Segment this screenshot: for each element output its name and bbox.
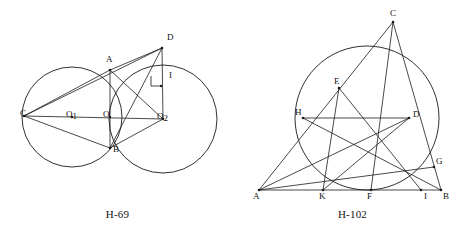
segment-ei: [339, 88, 421, 190]
label-i: I: [424, 191, 427, 201]
figure-h69-caption: H-69: [0, 208, 235, 220]
figure-h69-drawing: A B C D I O O1 O2: [0, 0, 235, 208]
point-i: [160, 85, 162, 87]
segment-a-o2: [110, 70, 163, 119]
label-g: G: [436, 156, 443, 166]
segment-cb: [393, 22, 441, 190]
segment-cd: [24, 48, 162, 116]
segment-ek: [323, 88, 339, 190]
label-d: D: [167, 32, 174, 42]
segment-cb: [24, 116, 110, 148]
label-b: B: [443, 191, 449, 201]
figure-sheet: A B C D I O O1 O2: [0, 0, 470, 238]
label-a: A: [253, 191, 260, 201]
point-d: [161, 47, 164, 50]
label-c: C: [390, 8, 396, 18]
label-k: K: [319, 191, 326, 201]
label-b: B: [113, 144, 119, 154]
label-h: H: [295, 107, 302, 117]
segment-kd: [323, 118, 409, 190]
label-e: E: [334, 76, 340, 86]
point-g: [433, 166, 436, 169]
label-d: D: [413, 109, 420, 119]
point-c: [392, 21, 395, 24]
label-c: C: [20, 108, 26, 118]
label-f: F: [367, 191, 372, 201]
label-o1: O1: [66, 109, 77, 121]
figure-h69: A B C D I O O1 O2: [0, 0, 235, 238]
segment-ac: [259, 22, 393, 190]
right-angle-mark: [151, 76, 161, 86]
point-h: [302, 117, 305, 120]
point-b: [109, 147, 112, 150]
label-i: I: [169, 70, 172, 80]
figure-h102: A B C D E F G H I K: [235, 0, 470, 238]
segment-c-o2: [24, 116, 163, 119]
segment-d-o2: [162, 48, 163, 119]
label-o: O: [103, 109, 110, 119]
point-b: [440, 189, 443, 192]
point-a: [109, 69, 112, 72]
point-d: [408, 117, 411, 120]
figure-h102-caption: H-102: [235, 208, 470, 220]
figure-h102-drawing: A B C D E F G H I K: [235, 0, 470, 208]
point-i: [420, 189, 423, 192]
label-a: A: [106, 54, 113, 64]
segment-ad: [259, 118, 409, 190]
segment-da: [110, 48, 162, 70]
point-e: [338, 87, 341, 90]
